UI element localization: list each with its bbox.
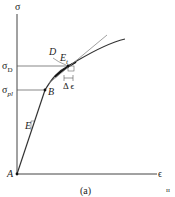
sigma-d-label: σD [2,61,12,74]
corner-mark: ɪɪ [166,187,170,194]
elastic-modulus-label: E [25,121,31,131]
caption: (a) [80,186,91,196]
elastic-line [17,90,45,174]
point-a [16,173,19,176]
sigma-pl-label: σpl [2,85,13,98]
tangent-line [48,35,107,84]
stress-strain-curve [45,39,125,90]
tangent-modulus-label: Et [60,53,68,66]
point-d-label: D [49,47,56,57]
point-b [44,89,47,92]
point-b-label: B [48,87,54,97]
epsilon-axis-label: ϵ [158,169,162,179]
strain-increment-label: Δ ϵ [63,82,74,91]
stress-strain-diagram [0,0,175,197]
sigma-axis-label: σ [15,2,20,12]
origin-label: A [7,169,13,179]
